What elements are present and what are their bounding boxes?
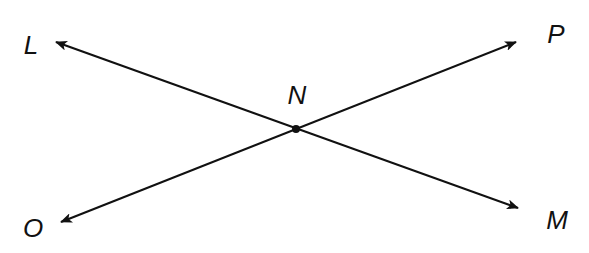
line-lm: [56, 42, 518, 208]
lines-layer: [0, 0, 589, 253]
label-l: L: [24, 32, 38, 58]
label-o: O: [23, 215, 43, 241]
point-n-dot: [292, 125, 300, 133]
label-n: N: [288, 82, 307, 108]
label-m: M: [546, 207, 568, 233]
diagram-canvas: L P N O M: [0, 0, 589, 253]
label-p: P: [547, 21, 564, 47]
